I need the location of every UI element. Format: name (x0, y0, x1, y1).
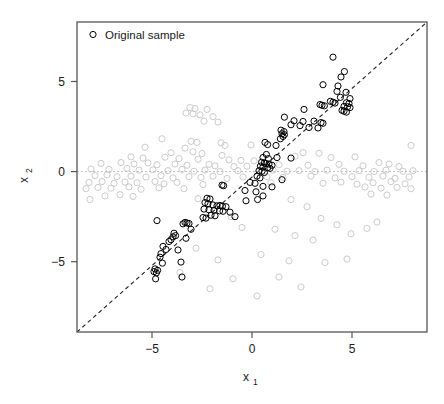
x-axis-label-base: x (243, 370, 249, 384)
figure-background (0, 0, 444, 404)
legend-label-original-sample: Original sample (105, 29, 185, 41)
x-tick-label: 0 (249, 342, 256, 356)
x-tick-label: 5 (349, 342, 356, 356)
y-axis-label-subscript: 2 (24, 168, 34, 173)
x-axis-label-subscript: 1 (253, 377, 258, 387)
y-tick-label: 0 (58, 165, 65, 179)
legend: Original sample (90, 29, 185, 41)
y-tick-label: 5 (58, 75, 65, 89)
y-tick-label: −5 (51, 255, 65, 269)
x-tick-label: −5 (145, 342, 159, 356)
y-axis-label-base: x (17, 177, 31, 183)
scatter-plot-figure: −505 −505 Original sample x 1 x 2 (0, 0, 444, 404)
plot-canvas: −505 −505 Original sample x 1 x 2 (0, 0, 444, 404)
